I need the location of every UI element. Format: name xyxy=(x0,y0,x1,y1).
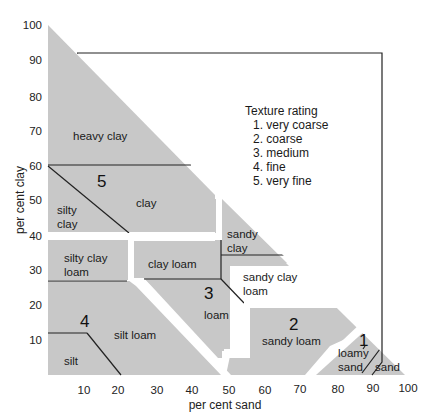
y-tick-10: 10 xyxy=(29,334,42,346)
x-tick-50: 50 xyxy=(223,384,236,396)
y-tick-60: 60 xyxy=(29,160,42,172)
rating-5: 5 xyxy=(97,172,106,191)
label-sandy-clay-loam-2: loam xyxy=(243,285,268,297)
gap-40 xyxy=(48,233,221,240)
label-silt-loam: silt loam xyxy=(114,329,156,341)
x-tick-70: 70 xyxy=(294,383,307,395)
legend-item-1: 1. very coarse xyxy=(253,118,329,132)
label-clay: clay xyxy=(136,197,157,209)
label-sandy-clay-loam-1: sandy clay xyxy=(243,271,298,283)
gap-group3-bottom xyxy=(244,300,296,306)
x-tick-30: 30 xyxy=(151,384,164,396)
label-sand: sand xyxy=(375,361,400,373)
y-tick-50: 50 xyxy=(29,194,42,206)
label-loamy-sand-2: sand xyxy=(338,361,363,373)
rating-2: 2 xyxy=(289,315,298,334)
y-tick-80: 80 xyxy=(29,91,42,103)
x-axis-label: per cent sand xyxy=(189,398,262,412)
label-silty-clay-loam-1: silty clay xyxy=(64,252,108,264)
y-tick-100: 100 xyxy=(23,19,42,31)
label-silt: silt xyxy=(64,355,79,367)
x-tick-10: 10 xyxy=(78,384,91,396)
y-axis-label: per cent clay xyxy=(13,166,27,234)
x-tick-100: 100 xyxy=(398,382,417,394)
label-sandy-loam: sandy loam xyxy=(262,335,321,347)
x-tick-20: 20 xyxy=(112,384,125,396)
label-heavy-clay: heavy clay xyxy=(73,130,128,142)
legend-item-4: 4. fine xyxy=(253,160,286,174)
y-tick-30: 30 xyxy=(29,264,42,276)
label-sandy-clay-1: sandy xyxy=(227,228,258,240)
gap-v-group4 xyxy=(128,240,134,281)
label-loam: loam xyxy=(204,309,229,321)
y-tick-70: 70 xyxy=(29,125,42,137)
rating-4: 4 xyxy=(80,312,89,331)
label-silty-clay-loam-2: loam xyxy=(64,266,89,278)
x-tick-60: 60 xyxy=(259,384,272,396)
soil-texture-diagram: 100 90 80 70 60 50 40 30 20 10 per cent … xyxy=(0,0,430,415)
x-tick-40: 40 xyxy=(186,384,199,396)
x-tick-90: 90 xyxy=(367,382,380,394)
label-sandy-clay-2: clay xyxy=(227,242,248,254)
label-clay-loam: clay loam xyxy=(148,258,197,270)
legend-item-5: 5. very fine xyxy=(253,174,312,188)
legend-title: Texture rating xyxy=(245,104,318,118)
label-loamy-sand-1: loamy xyxy=(338,347,369,359)
legend-item-2: 2. coarse xyxy=(253,132,303,146)
y-tick-20: 20 xyxy=(29,299,42,311)
x-tick-80: 80 xyxy=(332,383,345,395)
label-silty-clay-1: silty xyxy=(57,204,77,216)
legend-item-3: 3. medium xyxy=(253,146,309,160)
y-tick-40: 40 xyxy=(29,230,42,242)
y-tick-90: 90 xyxy=(29,54,42,66)
rating-3: 3 xyxy=(204,284,213,303)
label-silty-clay-2: clay xyxy=(57,218,78,230)
